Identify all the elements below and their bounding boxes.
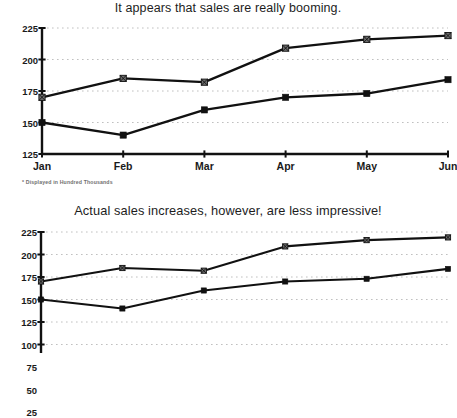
chart-1-title: It appears that sales are really booming… [0, 1, 456, 15]
x-tick-label: Jan [33, 160, 51, 172]
chart-1-plot-area: 125150175200225 JanFebMarAprMayJun [0, 18, 456, 178]
x-tick-label: Feb [114, 160, 133, 172]
chart-2-title: Actual sales increases, however, are les… [0, 203, 456, 218]
y-tick-label: 50 [26, 384, 37, 395]
x-tick-label: May [357, 160, 377, 172]
x-tick-label: Apr [277, 160, 295, 172]
chart-1-graphic [0, 18, 456, 178]
x-tick-label: Jun [439, 160, 457, 172]
y-tick-label: 25 [26, 407, 37, 418]
x-tick-label: Mar [195, 160, 214, 172]
chart-2-plot-area: 225200175150125100755025 [0, 222, 456, 353]
chart-2-graphic [0, 222, 456, 353]
chart-1-footnote: * Displayed in Hundred Thousands [22, 179, 113, 185]
y-tick-label: 75 [26, 362, 37, 373]
